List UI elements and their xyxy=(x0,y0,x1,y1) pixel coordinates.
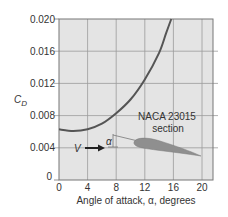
alpha-label: α xyxy=(106,136,112,147)
x-tick-label: 20 xyxy=(196,182,208,193)
plot-area xyxy=(59,19,213,180)
x-tick-label: 16 xyxy=(168,182,180,193)
x-tick-label: 8 xyxy=(113,182,119,193)
airfoil-label-line1: NACA 23015 xyxy=(138,111,196,122)
y-tick-label: 0.008 xyxy=(30,110,55,121)
x-axis-ticks: 048121620 xyxy=(56,182,208,193)
x-axis-label: Angle of attack, α, degrees xyxy=(76,195,195,206)
y-tick-label: 0.020 xyxy=(30,14,55,25)
y-tick-label: 0.004 xyxy=(30,142,55,153)
x-tick-label: 12 xyxy=(139,182,151,193)
x-tick-label: 0 xyxy=(56,182,62,193)
y-tick-label: 0 xyxy=(46,171,52,182)
drag-coefficient-chart: 00.0040.0080.0120.0160.020 048121620 V α… xyxy=(0,0,228,217)
y-axis-label: CD xyxy=(14,94,27,108)
y-axis-ticks: 00.0040.0080.0120.0160.020 xyxy=(30,14,55,183)
airfoil-label-line2: section xyxy=(152,123,184,134)
y-tick-label: 0.016 xyxy=(30,46,55,57)
x-tick-label: 4 xyxy=(85,182,91,193)
y-tick-label: 0.012 xyxy=(30,78,55,89)
